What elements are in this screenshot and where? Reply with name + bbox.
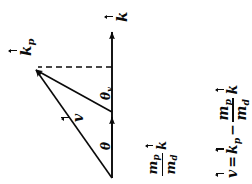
theta-symbol: θ xyxy=(99,142,113,150)
k-vector-label: k xyxy=(114,12,130,22)
v-symbol: v xyxy=(70,114,86,122)
kp-vector-line xyxy=(36,70,112,178)
equation-mass-ratio: mp md xyxy=(216,98,250,122)
equation-fraction-numerator: mp xyxy=(216,98,232,122)
theta-angle-label: θ xyxy=(100,142,112,150)
kp-subscript: p xyxy=(25,39,36,46)
equation-k-symbol: k xyxy=(224,85,240,95)
theta-v-angle-label: θv xyxy=(100,87,114,100)
mpmd-k-label: mp md k xyxy=(146,141,179,176)
theta-v-symbol: θ xyxy=(99,92,113,100)
equals-sign: = xyxy=(224,154,240,170)
kp-symbol: k xyxy=(17,46,35,56)
k-symbol: k xyxy=(113,12,131,22)
fraction-numerator: mp xyxy=(146,153,162,176)
equation-lhs-symbol: v xyxy=(224,170,240,178)
equation-kp-symbol: k xyxy=(224,144,240,154)
equation-fraction-denominator: md xyxy=(234,98,250,122)
vector-equation: v=kp− mp md k xyxy=(216,85,250,178)
mass-ratio-fraction: mp md xyxy=(146,153,179,176)
minus-sign: − xyxy=(224,122,240,138)
fraction-denominator: md xyxy=(163,153,179,176)
v-vector-label: v xyxy=(70,114,85,122)
vector-diagram-figure: k kp v θv θ mp md k v=kp− mp md k xyxy=(0,0,252,184)
theta-v-subscript: v xyxy=(105,87,114,92)
mpmd-k-symbol: k xyxy=(154,141,169,150)
kp-vector-label: kp xyxy=(18,39,36,57)
